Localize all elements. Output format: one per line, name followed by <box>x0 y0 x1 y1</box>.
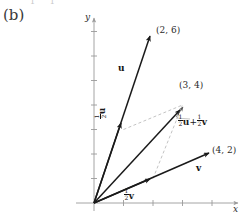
fraction-one-half-second: 12 <box>197 114 202 128</box>
bold-v: v <box>129 191 134 201</box>
cropped-text-above: 1 1 <box>30 0 130 6</box>
vector-sum-arrow <box>94 110 180 203</box>
vector-label-v: v <box>196 164 201 173</box>
vector-addition-figure <box>0 0 244 219</box>
vector-label-half-v: 12v <box>124 186 134 202</box>
plus-sign: + <box>189 117 197 127</box>
point-label-2-6: (2, 6) <box>156 26 180 35</box>
fraction-one-half: 12 <box>94 114 108 119</box>
fraction-one-half-first: 12 <box>178 114 183 128</box>
point-label-3-4: (3, 4) <box>179 81 203 90</box>
point-label-4-2: (4, 2) <box>212 146 236 155</box>
fraction-one-half: 12 <box>124 188 129 202</box>
panel-label: (b) <box>3 8 24 23</box>
annotation-label-half-u-plus-half-v: 12u+12v <box>178 112 207 128</box>
vector-label-u: u <box>118 64 125 73</box>
y-axis-label: y <box>85 13 90 22</box>
x-axis-label: x <box>233 205 238 214</box>
bold-v: v <box>202 117 207 127</box>
vector-half-u-arrow <box>94 123 121 203</box>
vector-half-v-arrow <box>94 179 150 203</box>
vector-label-half-u: 12u <box>92 108 108 119</box>
